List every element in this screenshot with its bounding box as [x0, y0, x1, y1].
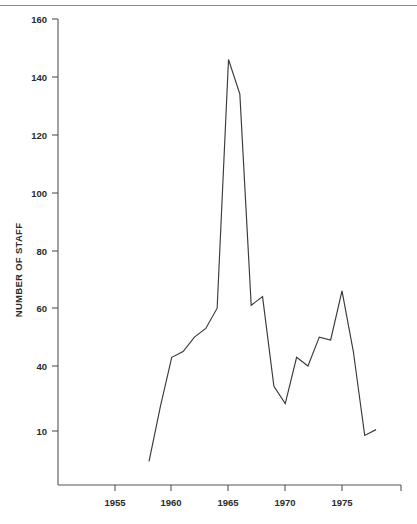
line-chart-plot: 160 140 120 100 80 60 40 10 NUMBER OF ST… [0, 0, 417, 524]
y-tick-label-80: 80 [36, 246, 47, 257]
y-tick-label-60: 60 [36, 303, 47, 314]
x-axis-ticks [115, 485, 401, 491]
chart-figure: 160 140 120 100 80 60 40 10 NUMBER OF ST… [0, 0, 417, 524]
y-axis-tick-labels: 160 140 120 100 80 60 40 10 [31, 14, 47, 437]
x-tick-label-1975: 1975 [331, 497, 353, 508]
y-tick-label-140: 140 [31, 72, 47, 83]
data-series-line [149, 59, 376, 461]
x-tick-label-1970: 1970 [274, 497, 295, 508]
x-tick-label-1965: 1965 [217, 497, 239, 508]
y-tick-label-10: 10 [36, 426, 47, 437]
y-tick-label-100: 100 [31, 188, 47, 199]
y-tick-label-40: 40 [36, 361, 47, 372]
y-tick-label-120: 120 [31, 130, 47, 141]
x-tick-label-1960: 1960 [160, 497, 181, 508]
y-axis-title: NUMBER OF STAFF [13, 223, 24, 318]
x-tick-label-1955: 1955 [104, 497, 126, 508]
y-tick-label-160: 160 [31, 14, 47, 25]
y-axis-ticks [52, 19, 58, 431]
x-axis-tick-labels: 1955 1960 1965 1970 1975 [104, 497, 353, 508]
